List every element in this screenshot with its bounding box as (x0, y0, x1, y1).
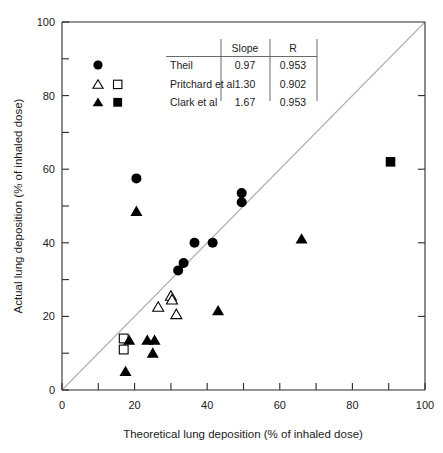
data-point-filled-square (386, 157, 396, 167)
x-tick-label-0: 0 (59, 399, 65, 411)
legend-label-theil: Theil (170, 59, 193, 71)
legend-r-theil: 0.953 (280, 59, 306, 71)
series-clark-et-al-filled-square (386, 157, 396, 167)
legend-marker-open-square (114, 80, 122, 88)
x-tick-label-20: 20 (128, 399, 140, 411)
scatter-plot-figure: 0 20 40 60 80 100 0 20 40 60 80 (0, 0, 443, 453)
x-axis-ticks (62, 383, 425, 390)
legend-marker-filled-circle (93, 60, 102, 69)
series-clark-et-al-filled-triangle (120, 206, 308, 376)
data-point-filled-triangle (212, 305, 224, 315)
legend-marker-open-triangle (93, 80, 103, 89)
data-point-layer (119, 157, 395, 376)
y-tick-labels: 0 20 40 60 80 100 (37, 16, 55, 396)
y-tick-label-100: 100 (37, 16, 55, 28)
y-tick-label-0: 0 (49, 384, 55, 396)
data-point-open-triangle (171, 309, 182, 319)
data-point-filled-circle (131, 173, 141, 183)
legend-marker-filled-triangle (93, 98, 104, 107)
data-point-filled-circle (208, 238, 218, 248)
series-pritchard-et-al-open-triangle (153, 291, 182, 319)
x-tick-label-40: 40 (201, 399, 213, 411)
data-point-open-triangle (153, 302, 164, 312)
data-point-open-square (119, 345, 128, 354)
y-tick-label-60: 60 (43, 163, 55, 175)
data-point-filled-triangle (147, 347, 159, 357)
legend-r-pritchard: 0.902 (280, 78, 306, 90)
data-point-filled-circle (237, 188, 247, 198)
legend-slope-clark: 1.67 (235, 96, 256, 108)
legend-label-clark: Clark et al (170, 96, 217, 108)
y-tick-label-40: 40 (43, 237, 55, 249)
y-tick-label-20: 20 (43, 310, 55, 322)
data-point-filled-triangle (296, 233, 308, 243)
legend-marker-filled-square (113, 98, 122, 107)
data-point-filled-circle (179, 258, 189, 268)
y-axis-ticks (62, 22, 69, 390)
x-axis-title: Theoretical lung deposition (% of inhale… (123, 428, 363, 440)
legend: Slope R Theil 0.97 0.953 Pritchard et al… (93, 39, 317, 108)
x-tick-label-60: 60 (274, 399, 286, 411)
y-tick-label-80: 80 (43, 90, 55, 102)
plot-canvas: 0 20 40 60 80 100 0 20 40 60 80 (0, 0, 443, 453)
legend-header-slope: Slope (232, 42, 259, 54)
data-point-filled-triangle (130, 206, 142, 216)
data-point-filled-circle (189, 238, 199, 248)
legend-slope-theil: 0.97 (235, 59, 256, 71)
series-theil-filled-circle (131, 173, 246, 275)
legend-label-pritchard: Pritchard et al (170, 78, 235, 90)
legend-r-clark: 0.953 (280, 96, 306, 108)
legend-slope-pritchard: 1.30 (235, 78, 256, 90)
legend-header-r: R (289, 42, 297, 54)
y-axis-title: Actual lung deposition (% of inhaled dos… (12, 98, 24, 313)
data-point-filled-circle (237, 197, 247, 207)
x-tick-labels: 0 20 40 60 80 100 (59, 399, 434, 411)
data-point-filled-triangle (149, 334, 161, 344)
x-tick-label-100: 100 (416, 399, 434, 411)
right-axis-ticks (418, 96, 425, 317)
x-tick-label-80: 80 (346, 399, 358, 411)
data-point-filled-triangle (120, 366, 132, 376)
